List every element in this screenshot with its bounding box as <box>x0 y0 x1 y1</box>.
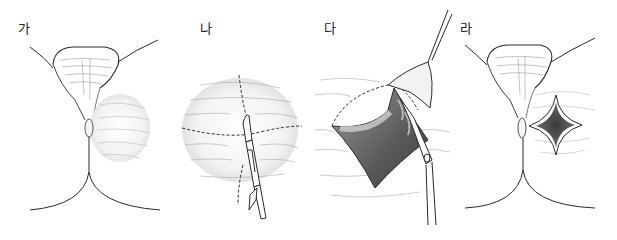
panel-ga: 가 <box>0 0 160 240</box>
panel-na: 나 <box>160 0 310 240</box>
panel-da: 다 <box>310 0 460 240</box>
surgical-figure: 가 <box>0 0 617 240</box>
flap-excision-drawing <box>310 0 460 240</box>
unroofed-wound-drawing <box>455 0 617 240</box>
panel-ra: 라 <box>455 0 617 240</box>
perineum-swelling-drawing <box>0 0 160 240</box>
cruciate-incision-drawing <box>160 0 310 240</box>
